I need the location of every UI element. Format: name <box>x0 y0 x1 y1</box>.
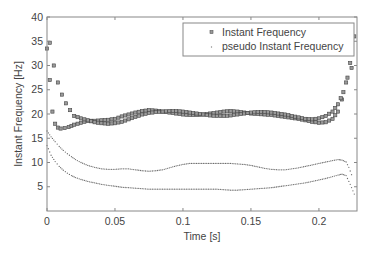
dot-marker <box>75 177 76 178</box>
dot-marker <box>269 168 270 169</box>
dot-marker <box>211 189 212 190</box>
dot-marker <box>254 165 255 166</box>
dot-marker <box>260 188 261 189</box>
square-marker <box>253 111 256 114</box>
dot-marker <box>240 164 241 165</box>
dot-marker <box>294 184 295 185</box>
y-tick-label: 25 <box>31 83 43 95</box>
legend-square-marker-icon <box>210 31 213 34</box>
square-marker <box>239 112 242 115</box>
dot-marker <box>303 182 304 183</box>
dot-marker <box>330 176 331 177</box>
square-marker <box>69 109 72 112</box>
dot-marker <box>150 170 151 171</box>
dot-marker <box>153 170 154 171</box>
dot-marker <box>162 189 163 190</box>
dot-marker <box>187 163 188 164</box>
square-marker <box>232 110 235 113</box>
dot-marker <box>167 168 168 169</box>
square-marker <box>311 118 314 121</box>
dot-marker <box>131 187 132 188</box>
dot-marker <box>61 168 62 169</box>
square-marker <box>161 110 164 113</box>
dot-marker <box>89 165 90 166</box>
dot-marker <box>328 177 329 178</box>
dot-marker <box>121 187 122 188</box>
square-marker <box>334 106 337 109</box>
dot-marker <box>334 160 335 161</box>
dot-marker <box>140 188 141 189</box>
dot-marker <box>288 169 289 170</box>
dot-marker <box>181 189 182 190</box>
dot-marker <box>350 170 351 171</box>
dot-marker <box>165 168 166 169</box>
square-marker <box>147 111 150 114</box>
dot-marker <box>238 163 239 164</box>
square-marker <box>76 116 79 119</box>
dot-marker <box>133 187 134 188</box>
dot-marker <box>352 190 353 191</box>
square-marker <box>243 112 246 115</box>
dot-marker <box>339 159 340 160</box>
dot-marker <box>164 189 165 190</box>
dot-marker <box>228 189 229 190</box>
square-marker <box>130 117 133 120</box>
dot-marker <box>77 160 78 161</box>
square-marker <box>339 97 342 100</box>
dot-marker <box>208 163 209 164</box>
pseudo-instant-frequency-series <box>46 130 355 194</box>
dot-marker <box>284 185 285 186</box>
dot-marker <box>300 183 301 184</box>
dot-marker <box>147 170 148 171</box>
dot-marker <box>74 158 75 159</box>
dot-marker <box>157 189 158 190</box>
dot-marker <box>266 168 267 169</box>
legend-label-instant-frequency: Instant Frequency <box>222 26 307 38</box>
square-marker <box>287 114 290 117</box>
dot-marker <box>104 168 105 169</box>
dot-marker <box>198 163 199 164</box>
dot-marker <box>80 162 81 163</box>
dot-marker <box>266 187 267 188</box>
dot-marker <box>348 181 349 182</box>
square-marker <box>324 121 327 124</box>
dot-marker <box>216 163 217 164</box>
square-marker <box>317 121 320 124</box>
dot-marker <box>267 187 268 188</box>
dot-marker <box>271 187 272 188</box>
dot-marker <box>186 189 187 190</box>
dot-marker <box>118 168 119 169</box>
dot-marker <box>153 189 154 190</box>
square-marker <box>192 111 195 114</box>
dot-marker <box>237 163 238 164</box>
square-marker <box>331 117 334 120</box>
dot-marker <box>102 184 103 185</box>
dot-marker <box>230 163 231 164</box>
square-marker <box>328 119 331 122</box>
dot-marker <box>87 181 88 182</box>
dot-marker <box>119 186 120 187</box>
dot-marker <box>249 165 250 166</box>
square-marker <box>100 122 103 125</box>
square-marker <box>270 111 273 114</box>
square-marker <box>158 110 161 113</box>
square-marker <box>209 114 212 117</box>
square-marker <box>113 117 116 120</box>
dot-marker <box>189 163 190 164</box>
dot-marker <box>169 189 170 190</box>
dot-marker <box>208 189 209 190</box>
dot-marker <box>116 169 117 170</box>
square-marker <box>154 110 157 113</box>
dot-marker <box>242 164 243 165</box>
dot-marker <box>49 151 50 152</box>
dot-marker <box>306 182 307 183</box>
dot-marker <box>279 169 280 170</box>
dot-marker <box>123 168 124 169</box>
dot-marker <box>91 166 92 167</box>
dot-marker <box>126 168 127 169</box>
dot-marker <box>264 168 265 169</box>
x-tick-label: 0.15 <box>241 215 262 227</box>
dot-marker <box>255 188 256 189</box>
dot-marker <box>332 160 333 161</box>
dot-marker <box>131 169 132 170</box>
